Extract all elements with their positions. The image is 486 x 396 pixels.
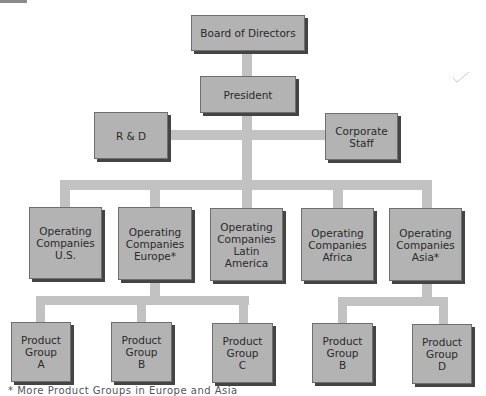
node-r-and-d: R & D [94, 112, 168, 159]
connector-pg-b-eu [137, 296, 146, 323]
connector-president-trunk [242, 112, 252, 184]
node-op-us: Operating Companies U.S. [29, 207, 102, 279]
corner-rule [0, 0, 27, 3]
connector-op-latam [242, 180, 252, 208]
node-op-europe: Operating Companies Europe* [118, 207, 192, 280]
node-president: President [200, 76, 296, 113]
connector-pg-b-asia [338, 297, 347, 324]
connector-asia-bus [338, 297, 448, 306]
node-corporate-staff: Corporate Staff [325, 113, 398, 160]
connector-op-europe [150, 180, 160, 208]
connector-staff-line [168, 130, 325, 140]
node-op-africa: Operating Companies Africa [301, 208, 374, 281]
connector-op-asia [422, 180, 432, 208]
connector-pg-d [439, 297, 448, 324]
connector-board-president [242, 50, 252, 76]
connector-pg-a [36, 296, 45, 323]
node-op-asia: Operating Companies Asia* [389, 208, 462, 281]
node-product-group-d: Product Group D [412, 324, 472, 384]
checkmark-icon [452, 70, 470, 84]
node-board-of-directors: Board of Directors [191, 15, 305, 51]
node-product-group-b-europe: Product Group B [111, 322, 172, 382]
connector-op-africa [333, 180, 343, 208]
node-product-group-b-asia: Product Group B [312, 323, 373, 383]
connector-pg-c [239, 296, 248, 323]
node-op-latin-america: Operating Companies Latin America [210, 208, 283, 281]
footnote: * More Product Groups in Europe and Asia [8, 385, 238, 396]
node-product-group-c: Product Group C [212, 323, 273, 383]
connector-op-us [60, 180, 70, 208]
node-product-group-a: Product Group A [11, 322, 71, 382]
